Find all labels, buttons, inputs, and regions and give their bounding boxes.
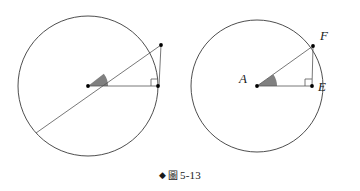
left-vertical-connector <box>159 45 161 86</box>
point-label-E: E <box>318 80 326 93</box>
point-A <box>255 84 259 88</box>
figure-drawing-canvas <box>0 0 360 191</box>
diamond-marker-icon: ◆ <box>159 170 166 180</box>
figure-5-13: A F E ◆圖5-13 <box>0 0 360 191</box>
caption-label-cjk: 圖 <box>168 170 178 181</box>
right-circle-group <box>191 20 323 152</box>
left-right-edge-point <box>156 84 160 88</box>
point-E <box>310 84 314 88</box>
caption-number: 5-13 <box>180 169 201 181</box>
point-label-A: A <box>239 72 247 85</box>
left-center-point <box>86 84 90 88</box>
left-upper-right-point <box>159 43 163 47</box>
point-F <box>311 44 315 48</box>
figure-caption: ◆圖5-13 <box>0 169 360 182</box>
point-label-F: F <box>320 29 328 42</box>
left-circle-group <box>18 16 163 156</box>
